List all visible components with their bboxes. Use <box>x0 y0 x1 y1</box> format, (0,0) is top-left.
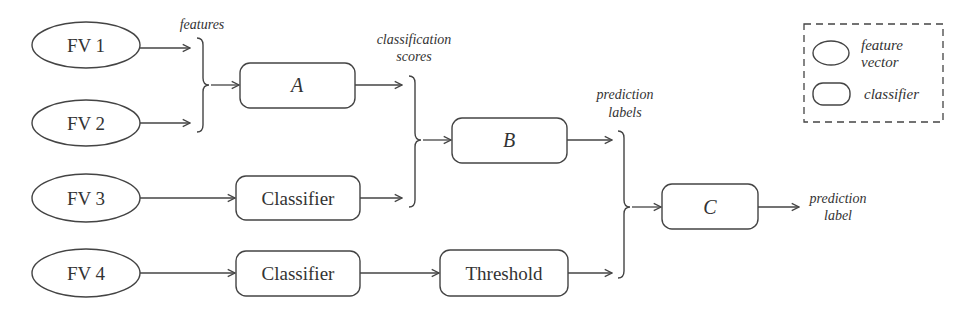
brace-features <box>197 38 209 132</box>
prediction-label-output-line1: prediction <box>808 191 866 206</box>
classification-scores-annotation-line1: classification <box>377 32 452 47</box>
fv4-label: FV 4 <box>67 263 106 284</box>
prediction-labels-annotation-line1: prediction <box>595 87 653 102</box>
classifier-fv3-label: Classifier <box>262 188 335 209</box>
legend: feature vector classifier <box>804 24 943 122</box>
brace-classification-scores <box>409 76 421 207</box>
classification-scores-annotation-line2: scores <box>396 49 432 64</box>
legend-rounded-rect-icon <box>813 83 850 105</box>
classifier-fv4-label: Classifier <box>262 263 335 284</box>
classifier-fv4: Classifier <box>236 251 360 296</box>
legend-feature-vector-line1: feature <box>861 37 903 53</box>
legend-ellipse-icon <box>813 41 849 65</box>
classifier-a-label: A <box>289 74 304 96</box>
classifier-c-label: C <box>703 196 717 218</box>
feature-vector-fv3: FV 3 <box>32 174 140 222</box>
brace-prediction-labels <box>618 131 630 278</box>
classifier-b: B <box>452 118 567 163</box>
legend-feature-vector-line2: vector <box>861 54 899 70</box>
fv2-label: FV 2 <box>67 113 105 134</box>
classifier-fv3: Classifier <box>236 176 360 220</box>
feature-vector-fv2: FV 2 <box>32 100 140 146</box>
prediction-labels-annotation-line2: labels <box>608 105 642 120</box>
fv3-label: FV 3 <box>67 188 105 209</box>
classifier-b-label: B <box>503 129 515 151</box>
feature-vector-fv1: FV 1 <box>32 22 140 68</box>
threshold-node: Threshold <box>440 250 568 296</box>
fv1-label: FV 1 <box>67 35 105 56</box>
fusion-diagram: FV 1 FV 2 FV 3 FV 4 features A classific… <box>0 0 973 313</box>
features-annotation: features <box>180 17 225 32</box>
threshold-label: Threshold <box>465 263 543 284</box>
prediction-label-output-line2: label <box>824 208 852 223</box>
classifier-a: A <box>240 63 355 108</box>
feature-vector-fv4: FV 4 <box>32 249 140 297</box>
classifier-c: C <box>662 184 758 229</box>
legend-classifier-label: classifier <box>864 86 919 102</box>
